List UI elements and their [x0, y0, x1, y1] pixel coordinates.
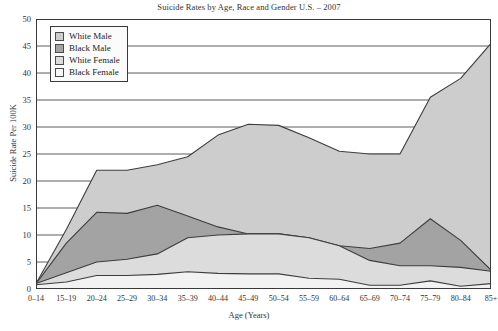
legend-item-label: White Female — [69, 55, 120, 65]
x-axis-label: Age (Years) — [0, 310, 498, 320]
x-tick-label: 65–69 — [360, 294, 380, 303]
x-tick-label: 20–24 — [87, 294, 107, 303]
y-tick-label: 45 — [23, 41, 32, 51]
x-tick-label: 85+ — [485, 294, 498, 303]
legend-swatch-icon — [55, 44, 64, 53]
legend-item-label: White Male — [69, 31, 112, 41]
x-tick-label: 30–34 — [147, 294, 167, 303]
chart-page: Suicide Rates by Age, Race and Gender U.… — [0, 0, 498, 331]
x-tick-label: 60–64 — [329, 294, 349, 303]
y-tick-label: 30 — [23, 122, 32, 132]
x-tick-label: 50–54 — [269, 294, 289, 303]
plot-area: 05101520253035404550 0–1415–1920–2425–29… — [36, 19, 491, 289]
y-tick-label: 50 — [23, 14, 32, 24]
y-axis-label: Suicide Rate Per 100K — [8, 73, 18, 213]
legend-item[interactable]: Black Female — [55, 66, 120, 78]
legend: White MaleBlack MaleWhite FemaleBlack Fe… — [50, 26, 128, 82]
legend-swatch-icon — [55, 68, 64, 77]
y-tick-label: 20 — [23, 176, 32, 186]
legend-item[interactable]: White Female — [55, 54, 120, 66]
x-tick-label: 15–19 — [56, 294, 76, 303]
y-tick-label: 10 — [23, 230, 32, 240]
x-tick-label: 45–49 — [238, 294, 258, 303]
y-tick-label: 0 — [27, 284, 31, 294]
y-tick-label: 35 — [23, 95, 32, 105]
x-tick-label: 35–39 — [178, 294, 198, 303]
chart-title: Suicide Rates by Age, Race and Gender U.… — [0, 2, 498, 12]
legend-swatch-icon — [55, 56, 64, 65]
x-tick-label: 0–14 — [28, 294, 44, 303]
y-tick-label: 5 — [27, 257, 31, 267]
legend-item[interactable]: White Male — [55, 30, 120, 42]
legend-item[interactable]: Black Male — [55, 42, 120, 54]
y-tick-label: 40 — [23, 68, 32, 78]
x-tick-label: 55–59 — [299, 294, 319, 303]
x-tick-label: 40–44 — [208, 294, 228, 303]
y-tick-label: 25 — [23, 149, 32, 159]
x-tick-label: 25–29 — [117, 294, 137, 303]
y-tick-label: 15 — [23, 203, 32, 213]
x-tick-label: 70–74 — [390, 294, 410, 303]
x-tick-label: 75–79 — [420, 294, 440, 303]
x-tick-label: 80–84 — [451, 294, 471, 303]
legend-item-label: Black Male — [69, 43, 111, 53]
legend-swatch-icon — [55, 32, 64, 41]
legend-item-label: Black Female — [69, 67, 119, 77]
